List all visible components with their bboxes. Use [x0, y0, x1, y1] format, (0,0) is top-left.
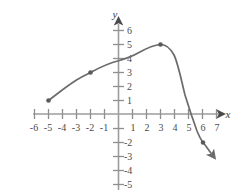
- x-label-7: 7: [215, 122, 220, 133]
- x-label--5: -5: [44, 122, 52, 133]
- data-point-3-5: [158, 42, 163, 47]
- x-label--4: -4: [58, 122, 66, 133]
- x-label-5: 5: [187, 122, 192, 133]
- y-label--4: -4: [124, 165, 132, 176]
- y-label-5: 5: [127, 39, 132, 50]
- data-point--5-1: [46, 98, 51, 103]
- x-label--3: -3: [72, 122, 80, 133]
- y-label--5: -5: [124, 179, 132, 190]
- y-axis-tick-labels: 6 5 4 3 2 1 -2 -3 -4 -5: [124, 25, 132, 190]
- x-label-2: 2: [145, 122, 150, 133]
- coordinate-plane-svg: -6 -5 -4 -3 -2 -1 1 2 3 4 5 6 7 6 5 4 3 …: [0, 0, 249, 196]
- x-label--2: -2: [86, 122, 94, 133]
- y-label-2: 2: [127, 81, 132, 92]
- x-label-1: 1: [131, 122, 136, 133]
- y-label-6: 6: [127, 25, 132, 36]
- x-label--6: -6: [30, 122, 38, 133]
- x-label-4: 4: [173, 122, 178, 133]
- y-label-1: 1: [127, 95, 132, 106]
- x-label-6: 6: [201, 122, 206, 133]
- x-axis-label: x: [225, 108, 231, 120]
- x-axis-tick-labels: -6 -5 -4 -3 -2 -1 1 2 3 4 5 6 7: [30, 122, 220, 133]
- x-label-3: 3: [159, 122, 164, 133]
- y-label--2: -2: [124, 137, 132, 148]
- data-point-6-neg2: [201, 140, 206, 145]
- y-label--3: -3: [124, 151, 132, 162]
- y-label-3: 3: [127, 67, 132, 78]
- x-label--1: -1: [100, 122, 108, 133]
- graph-figure: -6 -5 -4 -3 -2 -1 1 2 3 4 5 6 7 6 5 4 3 …: [0, 0, 249, 196]
- data-point--2-3: [88, 70, 93, 75]
- y-axis-label: y: [112, 8, 118, 20]
